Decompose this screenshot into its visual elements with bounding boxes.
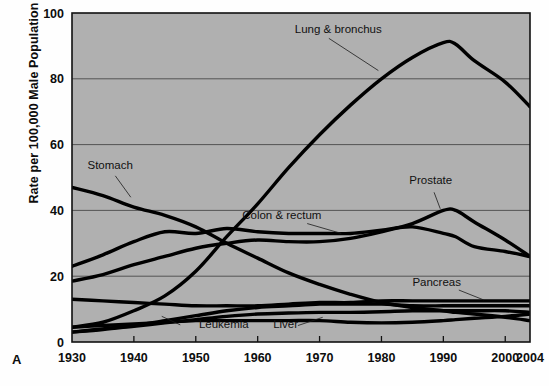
series-label-stomach: Stomach (87, 159, 132, 171)
x-tick-label-1930: 1930 (58, 351, 86, 365)
x-tick-label-1940: 1940 (120, 351, 148, 365)
y-tick-label-40: 40 (50, 204, 64, 218)
x-tick-label-1960: 1960 (244, 351, 272, 365)
figure-panel: Rate per 100,000 Male Population A Lung … (0, 0, 549, 386)
x-tick-label-2000: 2000 (491, 351, 519, 365)
series-label-colon-rectum: Colon & rectum (242, 209, 321, 221)
y-tick-label-0: 0 (57, 336, 64, 350)
x-tick-label-1990: 1990 (429, 351, 457, 365)
line-chart: Lung & bronchusStomachColon & rectumPros… (0, 0, 549, 386)
x-tick-label-1970: 1970 (306, 351, 334, 365)
y-tick-label-20: 20 (50, 270, 64, 284)
series-label-lung-bronchus: Lung & bronchus (295, 23, 382, 35)
series-label-pancreas: Pancreas (412, 276, 461, 288)
x-tick-label-1980: 1980 (368, 351, 396, 365)
x-tick-label-1950: 1950 (182, 351, 210, 365)
y-tick-label-60: 60 (50, 138, 64, 152)
y-tick-label-100: 100 (43, 7, 64, 21)
series-label-leukemia: Leukemia (199, 318, 249, 330)
series-label-liver: Liver (273, 318, 298, 330)
y-axis-ticks: 020406080100 (43, 7, 64, 350)
plot-background (72, 13, 530, 342)
x-tick-label-2004: 2004 (516, 351, 544, 365)
y-tick-label-80: 80 (50, 72, 64, 86)
series-label-prostate: Prostate (409, 174, 452, 186)
